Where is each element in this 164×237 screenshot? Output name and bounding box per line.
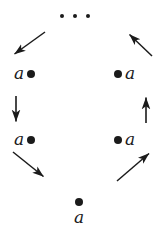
- node-lower-left: a: [14, 131, 35, 148]
- top-ellipsis: [60, 14, 90, 18]
- node-upper-left: a: [14, 65, 35, 82]
- node-label: a: [74, 209, 84, 226]
- node-label: a: [14, 65, 24, 82]
- node-lower-right: a: [114, 131, 135, 148]
- node-vertex-dot: [27, 136, 35, 144]
- node-label: a: [125, 131, 135, 148]
- node-vertex-dot: [27, 70, 35, 78]
- arrow-top-right-outgoing: [130, 35, 153, 57]
- node-vertex-dot: [114, 70, 122, 78]
- node-vertex-dot: [114, 136, 122, 144]
- ellipsis-dot: [60, 14, 64, 18]
- arrow-bottom-left-outgoing: [13, 152, 44, 177]
- ellipsis-dot: [86, 14, 90, 18]
- node-label: a: [125, 65, 135, 82]
- arrow-bottom-right-incoming: [117, 154, 149, 182]
- node-label: a: [14, 131, 24, 148]
- arrow-top-left-incoming: [15, 32, 46, 54]
- node-bottom-center: a: [74, 198, 84, 226]
- quiver-diagram: a a a a a: [0, 0, 164, 237]
- node-upper-right: a: [114, 65, 135, 82]
- ellipsis-dot: [73, 14, 77, 18]
- node-vertex-dot: [75, 198, 83, 206]
